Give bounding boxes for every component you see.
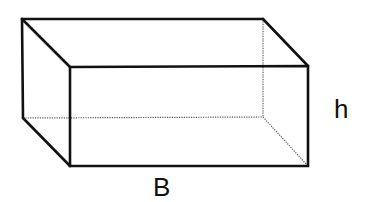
- edge-depth-top-right: [263, 19, 308, 66]
- edge-depth-top-left: [22, 19, 70, 67]
- base-label: B: [153, 172, 170, 202]
- hidden-edge-back-bottom: [23, 117, 263, 118]
- hidden-edges: [23, 19, 308, 166]
- edge-depth-bottom-left: [23, 118, 70, 166]
- visible-edges: [22, 19, 308, 166]
- edge-back-left: [22, 19, 23, 118]
- rectangular-prism-diagram: h B: [0, 0, 366, 202]
- front-face: [70, 66, 308, 166]
- hidden-edge-depth-bottom-right: [263, 117, 308, 166]
- height-label: h: [334, 94, 348, 124]
